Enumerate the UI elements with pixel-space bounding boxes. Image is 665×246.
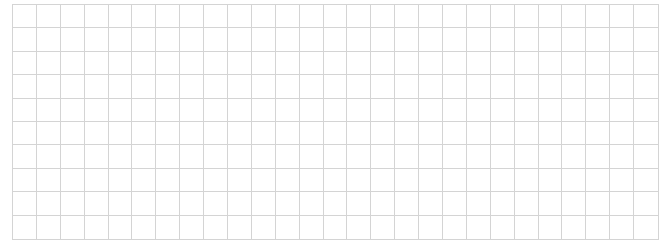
grid-cell xyxy=(204,192,228,215)
grid-cell xyxy=(443,52,467,75)
grid-cell xyxy=(443,216,467,239)
grid-cell xyxy=(252,28,276,51)
grid-cell xyxy=(180,122,204,145)
grid-cell xyxy=(204,52,228,75)
grid-cell xyxy=(371,28,395,51)
grid-cell xyxy=(443,192,467,215)
grid-cell xyxy=(395,169,419,192)
grid-cell xyxy=(85,99,109,122)
grid-cell xyxy=(132,5,156,28)
grid-cell xyxy=(156,192,180,215)
grid-cell xyxy=(395,216,419,239)
grid-cell xyxy=(539,169,563,192)
grid-cell xyxy=(37,145,61,168)
grid-cell xyxy=(276,216,300,239)
grid-cell xyxy=(37,5,61,28)
grid-cell xyxy=(371,145,395,168)
grid-cell xyxy=(467,75,491,98)
grid-cell xyxy=(13,75,37,98)
grid-cell xyxy=(228,28,252,51)
grid-cell xyxy=(37,52,61,75)
grid-cell xyxy=(539,122,563,145)
grid-cell xyxy=(37,216,61,239)
grid-cell xyxy=(347,52,371,75)
grid-cell xyxy=(13,99,37,122)
grid-cell xyxy=(204,216,228,239)
grid-cell xyxy=(491,192,515,215)
grid-cell xyxy=(419,28,443,51)
grid-cell xyxy=(85,75,109,98)
grid-cell xyxy=(491,99,515,122)
grid-cell xyxy=(180,192,204,215)
grid-cell xyxy=(252,169,276,192)
grid-cell xyxy=(539,145,563,168)
grid-cell xyxy=(324,99,348,122)
grid-cell xyxy=(371,192,395,215)
grid-cell xyxy=(228,145,252,168)
grid-cell xyxy=(539,28,563,51)
grid-cell xyxy=(610,122,634,145)
grid-cell xyxy=(13,122,37,145)
grid-cell xyxy=(85,169,109,192)
grid-cell xyxy=(491,145,515,168)
grid-cell xyxy=(85,216,109,239)
grid-cell xyxy=(300,122,324,145)
grid-cell xyxy=(515,145,539,168)
grid-cell xyxy=(109,169,133,192)
grid-cell xyxy=(371,52,395,75)
grid-cell xyxy=(610,99,634,122)
grid-cell xyxy=(515,5,539,28)
grid-cell xyxy=(467,99,491,122)
grid-cell xyxy=(443,169,467,192)
grid-cell xyxy=(395,28,419,51)
grid-cell xyxy=(228,52,252,75)
grid-cell xyxy=(324,169,348,192)
grid-cell xyxy=(515,75,539,98)
grid-cell xyxy=(204,145,228,168)
grid-cell xyxy=(109,122,133,145)
grid-cell xyxy=(276,192,300,215)
grid-cell xyxy=(276,52,300,75)
grid-cell xyxy=(586,75,610,98)
grid-cell xyxy=(252,5,276,28)
grid-cell xyxy=(156,169,180,192)
grid-cell xyxy=(228,99,252,122)
grid-cell xyxy=(419,216,443,239)
grid-cell xyxy=(37,192,61,215)
grid-cell xyxy=(109,75,133,98)
grid-cell xyxy=(491,75,515,98)
grid-cell xyxy=(252,99,276,122)
grid-cell xyxy=(300,28,324,51)
grid-cell xyxy=(515,28,539,51)
grid-cell xyxy=(300,99,324,122)
grid-cell xyxy=(132,192,156,215)
grid-cell xyxy=(204,99,228,122)
grid-cell xyxy=(300,145,324,168)
grid-cell xyxy=(515,122,539,145)
grid-cell xyxy=(586,52,610,75)
grid-cell xyxy=(324,28,348,51)
grid-cell xyxy=(562,5,586,28)
grid-cell xyxy=(539,52,563,75)
grid-cell xyxy=(419,75,443,98)
grid-cell xyxy=(61,216,85,239)
grid-cell xyxy=(276,5,300,28)
grid-cell xyxy=(61,192,85,215)
grid-cell xyxy=(252,52,276,75)
grid-cell xyxy=(61,52,85,75)
grid-cell xyxy=(180,145,204,168)
grid-cell xyxy=(13,169,37,192)
grid-cell xyxy=(491,52,515,75)
grid-cell xyxy=(443,122,467,145)
grid-cell xyxy=(347,75,371,98)
grid-cell xyxy=(347,192,371,215)
grid-cell xyxy=(37,99,61,122)
grid-cell xyxy=(539,99,563,122)
grid-cell xyxy=(132,28,156,51)
grid-cell xyxy=(228,169,252,192)
grid-cell xyxy=(300,192,324,215)
grid-cell xyxy=(634,99,658,122)
grid-cell xyxy=(228,192,252,215)
grid-cell xyxy=(467,28,491,51)
grid-cell xyxy=(562,216,586,239)
